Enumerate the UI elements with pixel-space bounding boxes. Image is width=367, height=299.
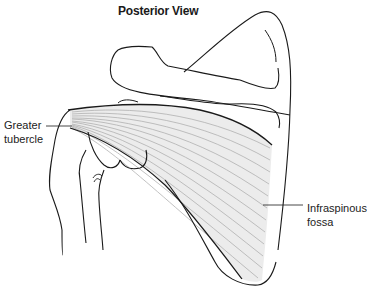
tubercle-bump	[118, 100, 138, 103]
spine-lower-edge	[240, 68, 279, 89]
humerus-inner-right	[99, 170, 104, 250]
label-infraspinous-fossa: Infraspinous fossa	[307, 201, 367, 229]
figure-title: Posterior View	[118, 4, 198, 18]
label-line: Greater	[4, 118, 43, 132]
label-line: Infraspinous	[307, 201, 367, 215]
label-line: fossa	[307, 215, 367, 229]
humerus-outline	[49, 110, 70, 255]
infraspinatus-muscle	[70, 105, 272, 282]
label-greater-tubercle: Greater tubercle	[4, 118, 43, 146]
acromion-top	[118, 46, 240, 80]
inner-ridge	[265, 30, 276, 62]
label-line: tubercle	[4, 132, 43, 146]
humerus-inner-left	[79, 150, 86, 243]
